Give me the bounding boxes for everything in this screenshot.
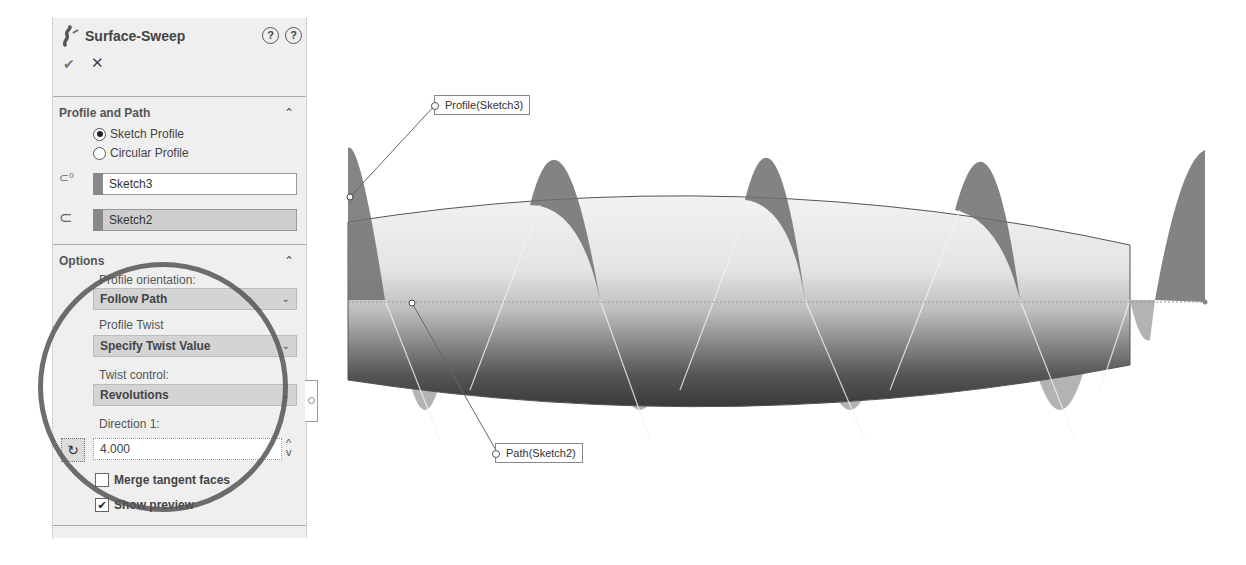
- callout-label: Profile(Sketch3): [445, 99, 523, 111]
- color-swatch: [93, 173, 103, 195]
- profile-selection-box[interactable]: Sketch3: [93, 173, 297, 195]
- radio-label: Sketch Profile: [110, 127, 184, 141]
- dropdown-value: Revolutions: [100, 388, 169, 402]
- callout-pin-icon: [431, 102, 439, 110]
- panel-collapse-tab[interactable]: [305, 380, 318, 422]
- graphics-viewport[interactable]: Profile(Sketch3) Path(Sketch2): [330, 0, 1246, 565]
- path-selection-icon: ⊂: [59, 208, 72, 227]
- callout-label: Path(Sketch2): [506, 447, 576, 459]
- checkbox-label: Show preview: [114, 498, 194, 512]
- help-icon[interactable]: ?: [285, 27, 302, 44]
- ok-checkmark-icon[interactable]: ✔: [63, 56, 75, 72]
- radio-button[interactable]: [93, 147, 106, 160]
- profile-pick-point: [347, 194, 353, 200]
- spinner-arrows-icon[interactable]: ^v: [286, 439, 292, 457]
- divider: [53, 525, 306, 526]
- chevron-down-icon: ⌄: [282, 336, 290, 356]
- direction1-value-input[interactable]: 4.000: [93, 438, 282, 460]
- chevron-down-icon: ⌄: [282, 385, 290, 405]
- cancel-x-icon[interactable]: ✕: [91, 54, 104, 72]
- profile-twist-label: Profile Twist: [99, 318, 163, 332]
- property-manager-panel: Surface-Sweep ? ? ✔ ✕ Profile and Path ⌃…: [52, 18, 307, 538]
- direction1-label: Direction 1:: [99, 417, 160, 431]
- collapse-chevron-icon[interactable]: ⌃: [284, 106, 294, 120]
- twist-control-label: Twist control:: [99, 368, 169, 382]
- profile-orientation-dropdown[interactable]: Follow Path ⌄: [93, 288, 297, 310]
- reverse-direction-button[interactable]: ↻: [61, 438, 85, 462]
- radio-circular-profile[interactable]: Circular Profile: [93, 146, 189, 160]
- divider: [53, 96, 306, 97]
- checkbox-label: Merge tangent faces: [114, 473, 230, 487]
- path-selection-box[interactable]: Sketch2: [93, 209, 297, 231]
- path-pick-point: [409, 300, 415, 306]
- chevron-down-icon: ⌄: [282, 289, 290, 309]
- path-selection-value: Sketch2: [103, 213, 152, 227]
- group-title-options[interactable]: Options: [59, 254, 104, 268]
- handle-dot-icon: [308, 397, 315, 404]
- color-swatch: [93, 209, 103, 231]
- twist-control-dropdown[interactable]: Revolutions ⌄: [93, 384, 297, 406]
- checkbox-checked[interactable]: ✔: [95, 498, 109, 512]
- feature-title: Surface-Sweep: [85, 28, 185, 44]
- radio-button-checked[interactable]: [93, 128, 106, 141]
- divider: [53, 244, 306, 245]
- dropdown-value: Specify Twist Value: [100, 339, 210, 353]
- profile-selection-value: Sketch3: [103, 177, 152, 191]
- merge-tangent-faces-checkbox[interactable]: Merge tangent faces: [95, 473, 230, 487]
- callout-pin-icon: [492, 450, 500, 458]
- path-callout[interactable]: Path(Sketch2): [495, 443, 583, 463]
- checkbox[interactable]: [95, 473, 109, 487]
- sweep-feature-icon: [61, 25, 81, 47]
- profile-callout[interactable]: Profile(Sketch3): [434, 95, 530, 115]
- radio-sketch-profile[interactable]: Sketch Profile: [93, 127, 184, 141]
- profile-leader-line: [350, 104, 436, 197]
- detailed-help-icon[interactable]: ?: [262, 27, 279, 44]
- profile-selection-icon: ⊂⁰: [59, 171, 74, 185]
- swept-body-surface: [348, 196, 1130, 407]
- group-title-profile-and-path[interactable]: Profile and Path: [59, 106, 150, 120]
- path-endpoint: [1203, 300, 1208, 305]
- profile-twist-dropdown[interactable]: Specify Twist Value ⌄: [93, 335, 297, 357]
- dropdown-value: Follow Path: [100, 292, 167, 306]
- rotate-arrow-icon: ↻: [67, 442, 79, 458]
- radio-label: Circular Profile: [110, 146, 189, 160]
- profile-orientation-label: Profile orientation:: [99, 273, 196, 287]
- sweep-preview-model: [330, 0, 1246, 565]
- show-preview-checkbox[interactable]: ✔ Show preview: [95, 498, 194, 512]
- panel-header: Surface-Sweep ? ? ✔ ✕: [53, 18, 306, 96]
- collapse-chevron-icon[interactable]: ⌃: [284, 254, 294, 268]
